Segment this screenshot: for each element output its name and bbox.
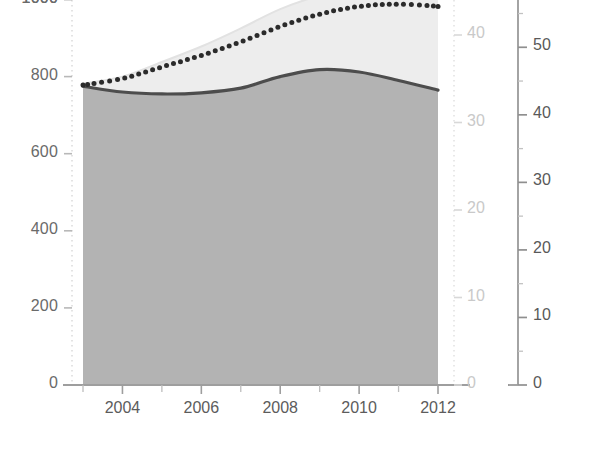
x-axis-tick-label: 2008 <box>250 399 310 417</box>
dotted-line-marker <box>324 10 329 15</box>
x-axis-tick-label: 2006 <box>171 399 231 417</box>
dotted-line-marker <box>338 7 343 12</box>
axis-right-inner-tick-label: 20 <box>467 199 485 217</box>
dotted-line-marker <box>213 48 218 53</box>
axis-left-tick-label: 400 <box>0 220 58 238</box>
dotted-line-marker <box>81 83 86 88</box>
dotted-line-marker <box>424 3 429 8</box>
dotted-line-marker <box>136 72 141 77</box>
axis-right-inner-tick-label: 30 <box>467 112 485 130</box>
axis-right-inner-tick-label: 40 <box>467 24 485 42</box>
axis-left-tick-label-top-clipped: 1000 <box>0 0 58 7</box>
x-axis-tick-label: 2004 <box>92 399 152 417</box>
dotted-line-marker <box>401 2 406 7</box>
dotted-line-marker <box>345 6 350 11</box>
axis-right-outer-tick-label: 50 <box>533 36 551 54</box>
dotted-line-marker <box>366 3 371 8</box>
dotted-line-marker <box>206 51 211 56</box>
dotted-line-marker <box>431 4 436 9</box>
axis-left-tick-label: 600 <box>0 143 58 161</box>
series-layer <box>81 0 441 385</box>
axis-right-inner-tick-label: 10 <box>467 287 485 305</box>
dotted-line-marker <box>310 14 315 19</box>
dotted-line-marker <box>227 44 232 49</box>
dotted-line-marker <box>255 33 260 38</box>
dotted-line-marker <box>234 41 239 46</box>
axis-right-outer-tick-label: 40 <box>533 104 551 122</box>
axis-right-outer-tick-label: 0 <box>533 374 542 392</box>
dotted-line-marker <box>352 5 357 10</box>
dotted-line-marker <box>436 4 441 9</box>
dotted-line-marker <box>268 27 273 32</box>
dotted-line-marker <box>282 22 287 27</box>
dotted-line-marker <box>387 2 392 7</box>
dotted-line-marker <box>331 8 336 13</box>
dotted-line-marker <box>157 65 162 70</box>
dotted-line-marker <box>317 12 322 17</box>
chart-container: 0200400600800100020042006200820102012010… <box>0 0 598 471</box>
axis-right-inner-tick-label: 0 <box>467 374 476 392</box>
dotted-line-marker <box>192 55 197 60</box>
dotted-line-marker <box>199 53 204 58</box>
x-axis-tick-label: 2012 <box>408 399 468 417</box>
dotted-line-marker <box>99 80 104 85</box>
dotted-line-marker <box>289 20 294 25</box>
dotted-line-marker <box>185 57 190 62</box>
dotted-line-marker <box>143 69 148 74</box>
dotted-line-marker <box>241 39 246 44</box>
dotted-line-marker <box>178 59 183 64</box>
dotted-line-marker <box>92 81 97 86</box>
dotted-line-marker <box>129 74 134 79</box>
dotted-line-marker <box>409 2 414 7</box>
axis-left-tick-label: 200 <box>0 297 58 315</box>
dotted-line-marker <box>85 82 90 87</box>
axis-right-outer-tick-label: 20 <box>533 239 551 257</box>
dotted-line-marker <box>417 3 422 8</box>
axis-right-outer-tick-label: 30 <box>533 171 551 189</box>
dotted-line-marker <box>373 2 378 7</box>
dotted-line-marker <box>296 18 301 23</box>
series-area-dark-fill <box>83 69 438 385</box>
dotted-line-marker <box>394 2 399 7</box>
axis-right-outer-tick-label: 10 <box>533 306 551 324</box>
dotted-line-marker <box>275 25 280 30</box>
dotted-line-marker <box>122 75 127 80</box>
dotted-line-marker <box>107 79 112 84</box>
x-axis-tick-label: 2010 <box>329 399 389 417</box>
dotted-line-marker <box>380 2 385 7</box>
dotted-line-marker <box>303 16 308 21</box>
dotted-line-marker <box>359 4 364 9</box>
dotted-line-marker <box>171 61 176 66</box>
axis-left-tick-label: 800 <box>0 66 58 84</box>
dotted-line-marker <box>220 46 225 51</box>
dotted-line-marker <box>164 63 169 68</box>
dotted-line-marker <box>150 67 155 72</box>
dotted-line-marker <box>261 30 266 35</box>
axis-left-tick-label: 0 <box>0 374 58 392</box>
dotted-line-marker <box>115 77 120 82</box>
dotted-line-marker <box>248 36 253 41</box>
